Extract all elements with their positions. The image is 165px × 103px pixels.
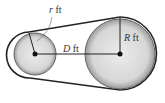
label-large-radius: R ft [123, 32, 139, 43]
large-center-dot [118, 52, 123, 57]
small-center-dot [33, 52, 38, 57]
label-distance: D ft [62, 43, 79, 54]
belt-pulley-diagram: r ft D ft R ft [0, 0, 165, 103]
label-small-radius: r ft [49, 4, 62, 15]
